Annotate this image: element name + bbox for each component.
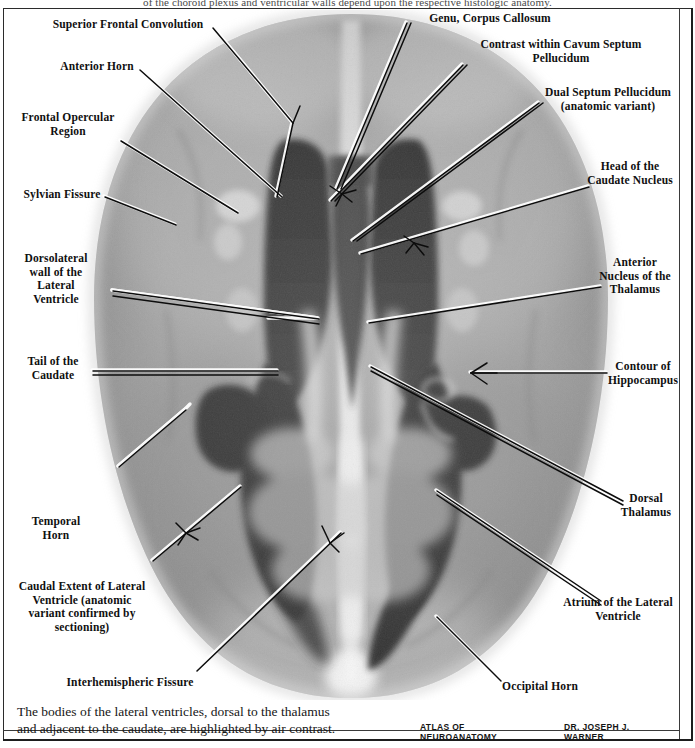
caption-line-1: The bodies of the lateral ventricles, do…: [17, 703, 437, 720]
label-contour-of-hippocampus: Contour of Hippocampus: [596, 360, 690, 387]
label-caudal-extent-lateral-ventricle: Caudal Extent of Lateral Ventricle (anat…: [0, 580, 168, 634]
label-frontal-opercular-region: Frontal Opercular Region: [6, 111, 130, 138]
label-head-of-the-caudate-nucleus: Head of the Caudate Nucleus: [576, 160, 684, 187]
credit-author: DR. JOSEPH J. WARNER: [564, 722, 670, 742]
label-interhemispheric-fissure: Interhemispheric Fissure: [50, 676, 210, 690]
label-dorsolateral-wall-lateral-ventricle: Dorsolateral wall of the Lateral Ventric…: [4, 252, 108, 306]
label-atrium-of-the-lateral-ventricle: Atrium of the Lateral Ventricle: [548, 596, 688, 623]
label-anterior-horn: Anterior Horn: [42, 60, 152, 74]
figure-page: of the choroid plexus and ventricular wa…: [0, 0, 695, 748]
label-tail-of-the-caudate: Tail of the Caudate: [6, 355, 100, 382]
label-dorsal-thalamus: Dorsal Thalamus: [604, 492, 688, 519]
label-occipital-horn: Occipital Horn: [480, 680, 600, 694]
label-superior-frontal-convolution: Superior Frontal Convolution: [38, 18, 218, 32]
label-contrast-within-cavum-septum-pellucidum: Contrast within Cavum Septum Pellucidum: [456, 38, 666, 65]
page-frame-top: [3, 8, 692, 9]
caption-line-2: and adjacent to the caudate, are highlig…: [17, 720, 437, 737]
label-sylvian-fissure: Sylvian Fissure: [6, 188, 118, 202]
label-dual-septum-pellucidum: Dual Septum Pellucidum (anatomic variant…: [528, 86, 688, 113]
label-temporal-horn: Temporal Horn: [6, 515, 106, 542]
credit-atlas-title: ATLAS OF NEUROANATOMY: [420, 722, 542, 742]
label-anterior-nucleus-of-the-thalamus: Anterior Nucleus of the Thalamus: [586, 256, 684, 297]
figure-caption: The bodies of the lateral ventricles, do…: [17, 703, 437, 737]
label-genu-corpus-callosum: Genu, Corpus Callosum: [400, 12, 580, 26]
figure-credit: ATLAS OF NEUROANATOMY DR. JOSEPH J. WARN…: [420, 722, 670, 742]
page-frame-right-outer: [691, 8, 693, 741]
